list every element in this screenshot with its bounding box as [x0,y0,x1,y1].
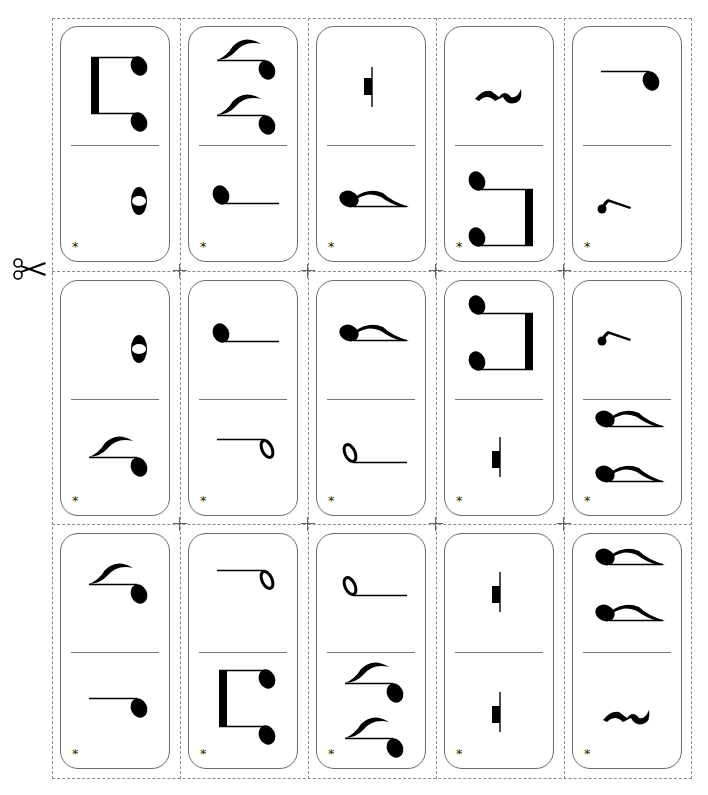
cut-line-vertical [564,18,565,779]
quarter-note-icon [573,27,681,145]
card-mark: * [328,240,335,253]
cut-cross-mark [301,517,315,531]
half-rest-icon [445,534,553,652]
card-mark: * [584,747,591,760]
half-rest-icon [317,27,425,145]
scissors-icon [12,258,48,280]
card-top-two-eighth-notes [573,534,681,652]
eighth-rest-icon [573,281,681,399]
cut-line-vertical [180,18,181,779]
cut-line-horizontal [52,271,692,272]
card-mark: * [200,494,207,507]
card-mark: * [328,747,335,760]
whole-note-icon [61,281,169,399]
domino-card[interactable]: * [60,533,170,769]
card-top-quarter-note [189,281,297,399]
card-top-two-eighths-beamed [445,281,553,399]
half-note-icon [189,534,297,652]
card-mark: * [456,747,463,760]
quarter-rest-icon [445,27,553,145]
domino-card[interactable]: * [316,280,426,516]
card-mark: * [456,240,463,253]
cut-cross-mark [301,264,315,278]
card-top-quarter-rest [445,27,553,145]
domino-card[interactable]: * [60,280,170,516]
two-flagged-eighth-notes-icon [189,27,297,145]
quarter-note-icon [189,281,297,399]
two-eighth-notes-icon [573,534,681,652]
card-mark: * [584,240,591,253]
card-top-eighth-note [317,281,425,399]
cut-cross-mark [557,264,571,278]
domino-card[interactable]: * [444,280,554,516]
card-mark: * [328,494,335,507]
card-mark: * [200,240,207,253]
cut-cross-mark [173,264,187,278]
cut-cross-mark [429,517,443,531]
two-sixteenths-beamed-icon [61,27,169,145]
domino-card[interactable]: * [572,280,682,516]
card-top-eighth-rest [573,281,681,399]
card-top-whole-note [61,281,169,399]
domino-card[interactable]: * [572,26,682,262]
cut-cross-mark [557,517,571,531]
card-top-flagged-eighth [61,534,169,652]
domino-card[interactable]: * [60,26,170,262]
domino-card[interactable]: * [444,26,554,262]
cut-line-vertical [436,18,437,779]
domino-card[interactable]: * [188,26,298,262]
domino-card[interactable]: * [316,26,426,262]
flagged-eighth-note-icon [61,534,169,652]
card-top-half-note [189,534,297,652]
card-top-two-sixteenths-beamed [61,27,169,145]
card-mark: * [456,494,463,507]
card-mark: * [200,747,207,760]
card-mark: * [72,494,79,507]
domino-card[interactable]: * [316,533,426,769]
card-mark: * [72,747,79,760]
half-note-icon [317,534,425,652]
domino-card[interactable]: * [444,533,554,769]
card-top-half-rest [445,534,553,652]
card-top-half-note [317,534,425,652]
card-top-two-flagged-eighths [189,27,297,145]
two-eighths-beamed-icon [445,281,553,399]
domino-card[interactable]: * [188,280,298,516]
eighth-note-icon [317,281,425,399]
cut-cross-mark [429,264,443,278]
cut-line-horizontal [52,524,692,525]
card-mark: * [72,240,79,253]
cut-cross-mark [173,517,187,531]
domino-card[interactable]: * [572,533,682,769]
domino-card[interactable]: * [188,533,298,769]
card-mark: * [584,494,591,507]
card-top-half-rest [317,27,425,145]
card-top-quarter-note [573,27,681,145]
cut-line-vertical [308,18,309,779]
